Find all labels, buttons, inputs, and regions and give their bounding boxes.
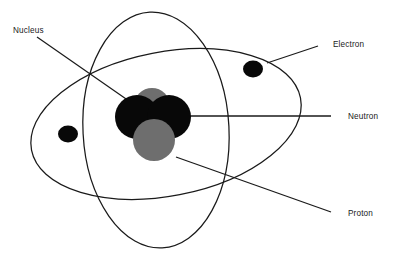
leader-line-proton bbox=[176, 157, 331, 212]
atom-diagram-canvas: Nucleus Electron Neutron Proton bbox=[0, 0, 406, 263]
label-proton: Proton bbox=[348, 209, 373, 218]
label-nucleus: Nucleus bbox=[13, 26, 44, 35]
label-group: Nucleus Electron Neutron Proton bbox=[13, 26, 378, 218]
electron-left bbox=[58, 126, 78, 143]
proton-lower-circle bbox=[133, 119, 175, 161]
atom-diagram: Nucleus Electron Neutron Proton bbox=[0, 0, 406, 263]
leader-line-electron bbox=[267, 46, 318, 63]
nucleus-cluster bbox=[115, 88, 191, 161]
leader-line-nucleus bbox=[37, 37, 129, 101]
label-neutron: Neutron bbox=[348, 112, 378, 121]
label-electron: Electron bbox=[333, 40, 365, 49]
electron-right bbox=[243, 61, 263, 78]
